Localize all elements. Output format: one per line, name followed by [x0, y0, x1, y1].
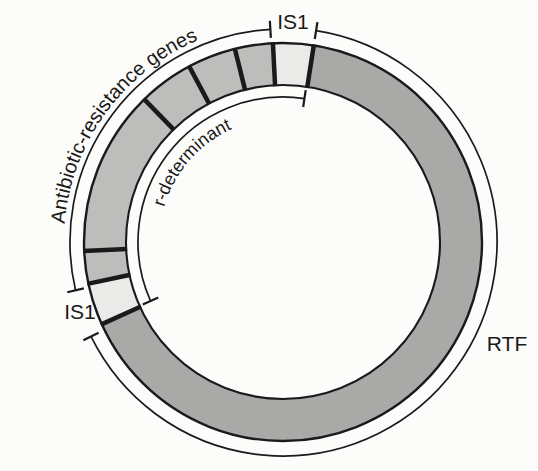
segment-gene: [199, 69, 240, 85]
rtf-bracket-tick: [83, 333, 98, 341]
r-determinant-bracket-tick: [303, 90, 306, 107]
segment-is1: [109, 279, 121, 315]
antibiotic-genes-bracket-tick: [270, 21, 271, 38]
segment-is1: [274, 64, 311, 66]
segment-divider: [83, 249, 127, 251]
is1-left-label: IS1: [64, 300, 96, 323]
plasmid-diagram: IS1 IS1 RTF Antibiotic-resistance genes …: [0, 0, 538, 471]
ring-inner-outline: [126, 85, 440, 399]
plasmid-figure: IS1 IS1 RTF Antibiotic-resistance genes …: [0, 0, 538, 471]
rtf-label: RTF: [487, 332, 527, 355]
segment-divider: [273, 42, 275, 86]
segment-gene: [105, 250, 109, 279]
r-determinant-bracket-tick: [143, 298, 159, 305]
rtf-bracket: [83, 22, 497, 456]
rtf-bracket-tick: [315, 22, 318, 39]
plasmid-ring: [105, 64, 461, 420]
is1-top-label: IS1: [277, 10, 309, 33]
segment-gene: [159, 85, 199, 114]
segment-gene: [240, 64, 274, 69]
